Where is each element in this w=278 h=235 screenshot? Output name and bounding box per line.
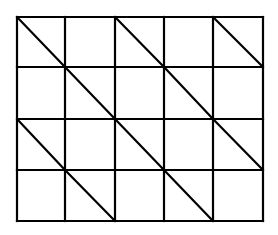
cell-diagonal (65, 67, 115, 119)
grid-lines (17, 17, 263, 221)
cell-diagonal (115, 119, 164, 170)
cell-diagonal (164, 67, 213, 119)
cell-diagonal (65, 170, 115, 221)
grid-diagram (0, 0, 278, 235)
cell-diagonal (164, 170, 213, 221)
cell-diagonal (213, 119, 263, 170)
cell-diagonal (17, 17, 65, 67)
cell-diagonal (17, 119, 65, 170)
cell-diagonal (213, 17, 263, 67)
cell-diagonal (115, 17, 164, 67)
